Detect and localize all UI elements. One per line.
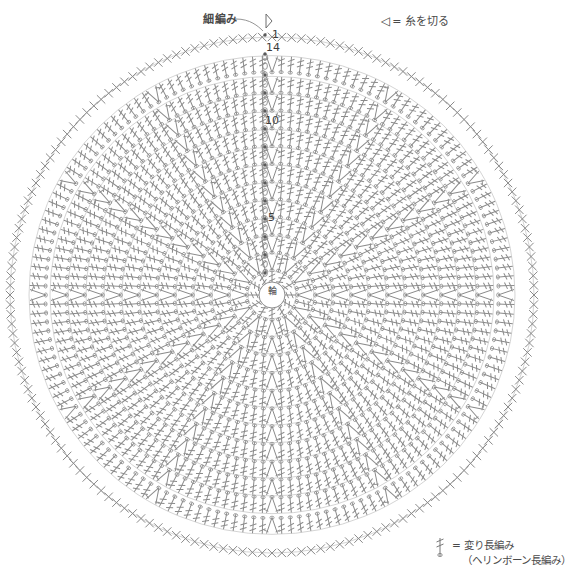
legend-hdc-icon [437, 538, 444, 557]
center-ring-label: 輪 [268, 284, 277, 297]
round-number-10: 10 [265, 114, 279, 127]
round-number-5: 5 [268, 211, 275, 224]
round-number-14: 14 [266, 41, 280, 54]
round-number-start: 1 [272, 28, 279, 41]
